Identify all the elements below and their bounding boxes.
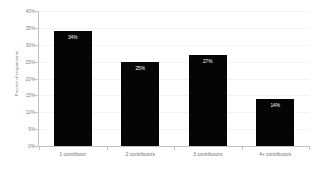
x-axis-tick-mark (39, 147, 40, 150)
bar: 27% (189, 55, 227, 146)
y-axis-tick-mark (35, 129, 38, 130)
y-axis-tick-label: 10% (26, 110, 35, 115)
y-axis-tick-label: 5% (28, 127, 35, 132)
y-axis-tick-mark (35, 146, 38, 147)
gridline (39, 11, 309, 12)
y-axis-tick-label: 20% (26, 76, 35, 81)
y-axis-tick-label: 40% (26, 9, 35, 14)
bar: 34% (54, 31, 92, 146)
y-axis-tick-mark (35, 45, 38, 46)
x-axis-tick-mark (309, 147, 310, 150)
y-axis-tick-mark (35, 95, 38, 96)
y-axis-tick-label: 25% (26, 59, 35, 64)
bar-value-label: 25% (121, 66, 159, 71)
x-axis-tick-mark (242, 147, 243, 150)
x-axis-tick-label: 1 contributor (59, 152, 86, 157)
x-axis-tick-mark (174, 147, 175, 150)
y-axis-tick-labels: 0%5%10%15%20%25%30%35%40% (18, 0, 37, 146)
bar-chart: Percent of respondents 0%5%10%15%20%25%3… (0, 0, 316, 169)
x-axis-tick-mark (107, 147, 108, 150)
bar-value-label: 34% (54, 35, 92, 40)
x-axis-tick-label: 4+ contributors (259, 152, 291, 157)
y-axis-tick-mark (35, 79, 38, 80)
plot-area: 34%25%27%14% (39, 11, 309, 146)
gridline (39, 28, 309, 29)
y-axis-tick-label: 0% (28, 144, 35, 149)
x-axis-tick-label: 2 contributors (126, 152, 155, 157)
y-axis-tick-label: 35% (26, 25, 35, 30)
y-axis-tick-mark (35, 28, 38, 29)
bar: 25% (121, 62, 159, 146)
y-axis-tick-mark (35, 112, 38, 113)
y-axis-tick-mark (35, 62, 38, 63)
bar-value-label: 14% (256, 103, 294, 108)
bar-value-label: 27% (189, 59, 227, 64)
y-axis-tick-label: 30% (26, 42, 35, 47)
y-axis-tick-label: 15% (26, 93, 35, 98)
y-axis-tick-mark (35, 11, 38, 12)
x-axis-tick-label: 3 contributors (193, 152, 222, 157)
x-axis-tick-labels: 1 contributor2 contributors3 contributor… (39, 152, 309, 164)
bar: 14% (256, 99, 294, 146)
